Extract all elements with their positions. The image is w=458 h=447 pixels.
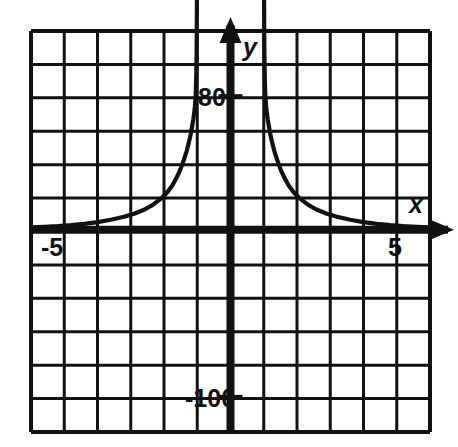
x-axis-label: x (407, 190, 424, 218)
graph-figure: x y -5 5 80 -100 (0, 0, 458, 447)
y-tick-label-neg100: -100 (185, 384, 235, 412)
y-tick-label-80: 80 (198, 83, 226, 111)
x-tick-label-neg5: -5 (41, 233, 63, 261)
y-axis-label: y (241, 33, 258, 61)
coordinate-plane: x y -5 5 80 -100 (0, 0, 458, 447)
x-tick-label-5: 5 (388, 233, 402, 261)
